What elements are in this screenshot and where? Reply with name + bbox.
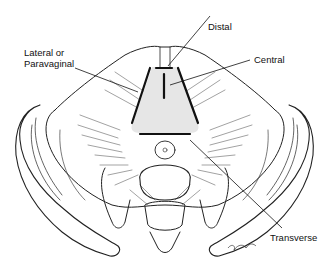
- pelvic-floor-diagram: Distal Lateral or Paravaginal Central Tr…: [0, 0, 329, 269]
- label-lateral-line2: Paravaginal: [24, 58, 74, 69]
- label-distal: Distal: [208, 21, 232, 32]
- leader-lateral: [75, 68, 138, 92]
- artist-signature: [228, 244, 256, 250]
- leader-central: [170, 60, 250, 85]
- pelvis-illustration: [0, 0, 329, 269]
- label-lateral-line1: Lateral or: [24, 47, 64, 58]
- sacrum: [140, 165, 190, 200]
- label-transverse: Transverse: [270, 232, 317, 243]
- anus: [155, 141, 175, 159]
- leader-distal: [168, 16, 210, 66]
- label-central: Central: [254, 54, 285, 65]
